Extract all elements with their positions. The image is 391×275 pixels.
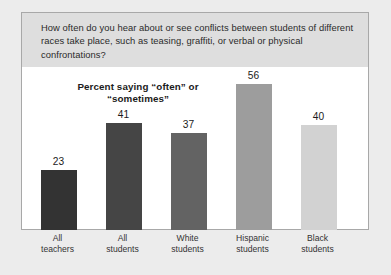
- category-label-line-2: students: [285, 244, 350, 255]
- category-label-line-2: students: [220, 244, 285, 255]
- bars-layer: 23 41 37 56 40: [22, 67, 370, 230]
- category-labels: All teachers All students White students…: [21, 233, 369, 267]
- category-label-white-students: White students: [155, 233, 220, 256]
- bar-value-hispanic-students: 56: [221, 70, 286, 81]
- question-text: How often do you hear about or see confl…: [41, 21, 359, 61]
- bar-value-all-students: 41: [91, 109, 156, 120]
- category-label-black-students: Black students: [285, 233, 350, 256]
- category-label-line-1: All: [90, 233, 155, 244]
- category-label-all-teachers: All teachers: [25, 233, 90, 256]
- bar-value-all-teachers: 23: [26, 156, 91, 167]
- category-label-line-1: All: [25, 233, 90, 244]
- bar-all-teachers: [41, 170, 77, 230]
- bar-all-students: [106, 123, 142, 230]
- plot-panel: Percent saying “often” or “sometimes” 23…: [21, 67, 369, 230]
- bar-white-students: [171, 133, 207, 230]
- category-label-line-2: students: [90, 244, 155, 255]
- category-label-line-1: Black: [285, 233, 350, 244]
- category-label-hispanic-students: Hispanic students: [220, 233, 285, 256]
- bar-value-black-students: 40: [286, 111, 351, 122]
- bar-hispanic-students: [236, 84, 272, 230]
- category-label-line-1: Hispanic: [220, 233, 285, 244]
- question-header-band: How often do you hear about or see confl…: [21, 12, 369, 68]
- category-label-all-students: All students: [90, 233, 155, 256]
- chart-figure: How often do you hear about or see confl…: [0, 0, 391, 275]
- category-label-line-1: White: [155, 233, 220, 244]
- category-label-line-2: teachers: [25, 244, 90, 255]
- bar-value-white-students: 37: [156, 119, 221, 130]
- category-label-line-2: students: [155, 244, 220, 255]
- bar-black-students: [301, 125, 337, 230]
